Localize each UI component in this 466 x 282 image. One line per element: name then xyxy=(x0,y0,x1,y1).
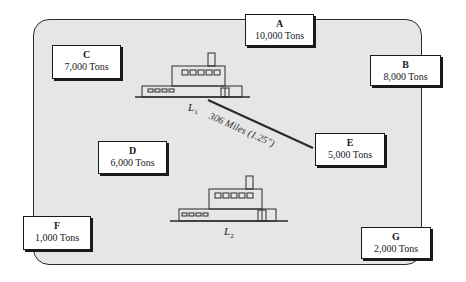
ship-l2-icon xyxy=(170,176,288,221)
port-a: A 10,000 Tons xyxy=(245,14,314,46)
port-name: G xyxy=(362,231,430,243)
port-tonnage: 5,000 Tons xyxy=(316,149,384,161)
port-tonnage: 7,000 Tons xyxy=(53,61,120,73)
port-name: F xyxy=(24,220,90,232)
port-name: D xyxy=(99,145,166,157)
ship-l2-label: L2 xyxy=(224,225,234,240)
port-d: D 6,000 Tons xyxy=(98,141,167,174)
port-e: E 5,000 Tons xyxy=(315,133,385,166)
port-c: C 7,000 Tons xyxy=(52,45,121,79)
port-tonnage: 2,000 Tons xyxy=(362,243,430,255)
port-tonnage: 10,000 Tons xyxy=(246,30,313,42)
port-tonnage: 1,000 Tons xyxy=(24,232,90,244)
port-f: F 1,000 Tons xyxy=(23,216,91,250)
port-b: B 8,000 Tons xyxy=(370,55,441,86)
port-tonnage: 8,000 Tons xyxy=(371,71,440,83)
port-name: A xyxy=(246,18,313,30)
port-tonnage: 6,000 Tons xyxy=(99,157,166,169)
port-name: B xyxy=(371,59,440,71)
port-g: G 2,000 Tons xyxy=(361,227,431,259)
port-name: E xyxy=(316,137,384,149)
ship-l1-label: L1 xyxy=(188,101,198,116)
port-name: C xyxy=(53,49,120,61)
ship-l1-icon xyxy=(135,53,250,97)
